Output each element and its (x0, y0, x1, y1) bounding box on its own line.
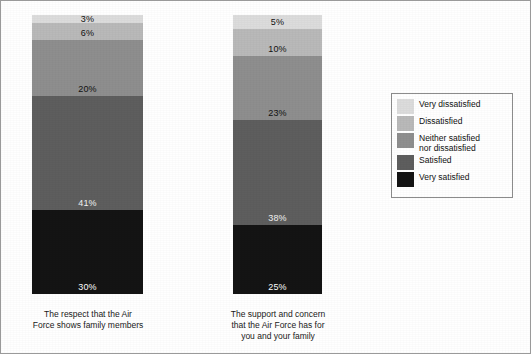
legend-swatch-icon (397, 116, 414, 131)
bar-segment-very-satisfied: 30% (32, 210, 143, 294)
bar-segment-value-label: 10% (268, 44, 287, 54)
bar-segment-value-label: 41% (78, 198, 97, 208)
legend-item-neither-satisfied-nor-dissatisfied: Neither satisfied nor dissatisfied (397, 133, 508, 153)
category-label-bar-2: The support and concern that the Air For… (198, 309, 358, 342)
bar-segment-dissatisfied: 6% (32, 23, 143, 40)
bar-respect-air-force-shows-family-members: 3% 6% 20% 41% 30% (32, 15, 143, 294)
legend-item-label: Dissatisfied (419, 116, 462, 127)
legend-swatch-icon (397, 155, 414, 170)
bar-support-and-concern-air-force-has-for-you-and-your-family: 5% 10% 23% 38% 25% (233, 15, 322, 294)
bar-segment-very-satisfied: 25% (233, 225, 322, 294)
legend-swatch-icon (397, 172, 414, 187)
bar-segment-value-label: 5% (271, 17, 284, 27)
chart-legend: Very dissatisfied Dissatisfied Neither s… (391, 93, 513, 198)
legend-item-label: Neither satisfied nor dissatisfied (419, 133, 480, 153)
bar-segment-neither-satisfied-nor-dissatisfied: 23% (233, 56, 322, 120)
bar-segment-value-label: 38% (268, 213, 287, 223)
bar-segment-very-dissatisfied: 5% (233, 15, 322, 29)
bar-segment-very-dissatisfied: 3% (32, 15, 143, 23)
bar-segment-satisfied: 38% (233, 120, 322, 225)
legend-item-satisfied: Satisfied (397, 155, 508, 170)
category-label-bar-1: The respect that the Air Force shows fam… (9, 309, 167, 331)
bar-segment-value-label: 30% (78, 282, 97, 292)
legend-swatch-icon (397, 99, 414, 114)
legend-item-very-dissatisfied: Very dissatisfied (397, 99, 508, 114)
bar-segment-dissatisfied: 10% (233, 29, 322, 57)
bar-segment-value-label: 23% (268, 108, 287, 118)
legend-item-label: Satisfied (419, 155, 452, 166)
bar-segment-value-label: 20% (78, 84, 97, 94)
stacked-bar-chart-figure: 3% 6% 20% 41% 30% The respect that the A… (0, 0, 531, 354)
legend-item-very-satisfied: Very satisfied (397, 172, 508, 187)
legend-swatch-icon (397, 133, 414, 148)
bar-segment-satisfied: 41% (32, 96, 143, 210)
bar-segment-value-label: 6% (81, 28, 94, 38)
bar-segment-value-label: 25% (268, 282, 287, 292)
legend-item-dissatisfied: Dissatisfied (397, 116, 508, 131)
bar-segment-neither-satisfied-nor-dissatisfied: 20% (32, 40, 143, 96)
legend-item-label: Very dissatisfied (419, 99, 480, 110)
legend-item-label: Very satisfied (419, 172, 470, 183)
